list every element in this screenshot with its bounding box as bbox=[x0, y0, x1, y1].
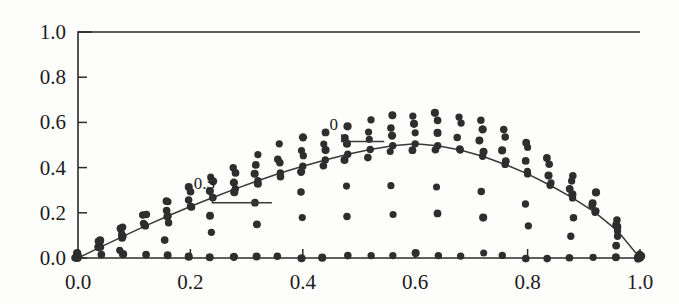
x-tick-label: 0.4 bbox=[290, 270, 317, 294]
data-point bbox=[340, 156, 348, 164]
data-point bbox=[390, 211, 397, 218]
data-point bbox=[522, 200, 529, 207]
data-point bbox=[545, 160, 553, 168]
data-point bbox=[568, 190, 576, 198]
data-point bbox=[613, 223, 621, 231]
axis-spine bbox=[78, 32, 640, 258]
data-point bbox=[232, 169, 240, 177]
x-tick-label: 0.6 bbox=[402, 270, 428, 294]
series-sparse-curve-b bbox=[73, 210, 642, 263]
data-point bbox=[480, 249, 487, 256]
data-point bbox=[456, 145, 464, 153]
data-point bbox=[502, 157, 510, 165]
data-point bbox=[387, 124, 395, 132]
data-point bbox=[500, 126, 508, 134]
x-tick-label: 0.2 bbox=[177, 270, 203, 294]
data-point bbox=[431, 109, 439, 117]
data-point bbox=[185, 253, 193, 261]
data-point bbox=[274, 253, 281, 260]
y-tick-label: 0.6 bbox=[40, 110, 66, 134]
data-point bbox=[457, 119, 464, 126]
data-point bbox=[253, 220, 261, 228]
x-tick-label: 0.8 bbox=[514, 270, 540, 294]
data-point bbox=[297, 188, 305, 196]
data-point bbox=[475, 137, 483, 145]
data-point bbox=[206, 253, 214, 261]
series-band-mid-1 bbox=[74, 129, 645, 260]
data-point bbox=[365, 128, 372, 135]
data-point bbox=[188, 203, 196, 211]
data-point bbox=[432, 146, 440, 154]
data-point bbox=[185, 196, 193, 204]
data-point bbox=[409, 112, 416, 119]
data-point bbox=[343, 213, 350, 220]
data-point bbox=[143, 211, 150, 218]
data-point bbox=[457, 252, 464, 259]
data-point bbox=[164, 251, 172, 259]
data-point bbox=[589, 254, 596, 261]
data-point bbox=[344, 252, 352, 260]
data-point bbox=[499, 252, 506, 259]
data-point bbox=[322, 146, 330, 154]
scatter-figure: 0.00.20.40.60.81.0 0.00.20.40.60.81.0 0.… bbox=[0, 0, 679, 304]
axis-tickmarks bbox=[78, 77, 640, 258]
data-point bbox=[543, 255, 551, 263]
data-point bbox=[141, 221, 149, 229]
data-point bbox=[498, 146, 506, 154]
data-point bbox=[544, 172, 552, 180]
data-point bbox=[389, 252, 396, 259]
series-sparse-curve-a bbox=[73, 182, 643, 260]
data-point bbox=[320, 162, 328, 170]
y-tick-label: 0.2 bbox=[40, 201, 66, 225]
data-point bbox=[387, 182, 394, 189]
data-point bbox=[433, 183, 440, 190]
y-tick-label: 0.8 bbox=[40, 65, 66, 89]
series-dots bbox=[71, 109, 645, 263]
data-point bbox=[614, 233, 621, 240]
data-point bbox=[478, 188, 486, 196]
data-point bbox=[206, 212, 214, 220]
data-point bbox=[276, 159, 284, 167]
data-point bbox=[567, 233, 574, 240]
data-point bbox=[161, 236, 169, 244]
data-point bbox=[453, 134, 461, 142]
data-point bbox=[276, 140, 283, 147]
data-point bbox=[434, 117, 442, 125]
data-point bbox=[254, 151, 261, 158]
data-point bbox=[409, 146, 417, 154]
data-point bbox=[412, 249, 420, 257]
data-point bbox=[164, 198, 171, 205]
data-point bbox=[612, 242, 620, 250]
data-point bbox=[297, 168, 305, 176]
x-axis-tick-labels: 0.00.20.40.60.81.0 bbox=[65, 270, 653, 294]
data-point bbox=[343, 140, 351, 148]
data-point bbox=[434, 129, 442, 137]
data-point bbox=[477, 117, 484, 124]
y-axis-tick-labels: 0.00.20.40.60.81.0 bbox=[40, 20, 67, 270]
data-point bbox=[142, 251, 150, 259]
data-point bbox=[410, 120, 418, 128]
data-point bbox=[163, 212, 171, 220]
data-point bbox=[387, 148, 394, 155]
data-point bbox=[322, 128, 330, 136]
data-point bbox=[367, 116, 374, 123]
series-band-upper bbox=[72, 109, 644, 261]
x-tick-label: 0.0 bbox=[65, 270, 91, 294]
data-point bbox=[98, 251, 106, 259]
data-point bbox=[118, 234, 126, 242]
data-point bbox=[478, 125, 486, 133]
data-point bbox=[208, 229, 215, 236]
data-point bbox=[548, 179, 555, 186]
data-point bbox=[480, 148, 488, 156]
data-point bbox=[254, 180, 262, 188]
data-point bbox=[501, 133, 509, 141]
data-point bbox=[230, 188, 238, 196]
data-point bbox=[367, 146, 374, 153]
data-point bbox=[388, 111, 396, 119]
annotation-label: 0.5 bbox=[194, 174, 215, 193]
data-point bbox=[592, 188, 600, 196]
plot-annotations: 0.50 bbox=[194, 115, 384, 202]
axis-spines bbox=[78, 32, 640, 258]
data-point bbox=[277, 173, 285, 181]
data-point bbox=[119, 250, 127, 258]
